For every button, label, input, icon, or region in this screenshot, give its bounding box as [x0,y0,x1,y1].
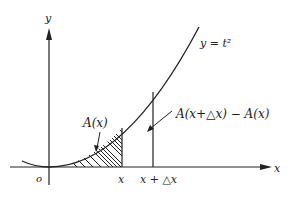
y-axis-label: y [44,12,52,25]
x-mark-label: x [118,173,125,186]
area-increment-label: A(x+△x) − A(x) [175,107,270,121]
arrowhead-icon [94,145,99,152]
x-axis-label: x [274,162,281,175]
y-axis-arrow-icon [46,28,52,40]
area-label: A(x) [82,116,108,130]
curve-label: y = t² [199,37,231,50]
origin-label: o [36,173,42,184]
leader-increment [147,111,172,132]
y-axis [46,28,52,185]
area-under-curve-diagram: y x o x x + △x A(x) A(x+△x) − A(x) y = t… [0,0,296,197]
x-axis-arrow-icon [260,164,272,170]
x-plus-dx-label: x + △x [140,173,178,186]
